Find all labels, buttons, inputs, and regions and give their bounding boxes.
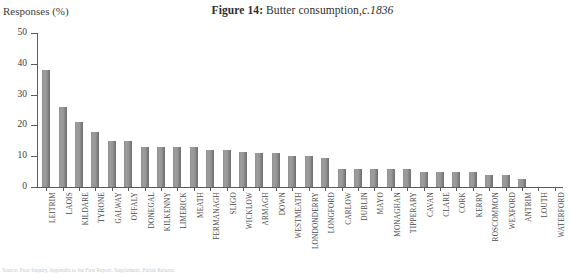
y-tick-30	[31, 95, 37, 96]
bar-monaghan	[387, 169, 395, 187]
x-label-carlow: CARLOW	[345, 192, 353, 250]
x-tick-mayo	[374, 188, 375, 191]
x-tick-longford	[325, 188, 326, 191]
x-label-cavan: CAVAN	[427, 192, 435, 250]
bar-tipperary	[403, 169, 411, 187]
bar-londonderry	[305, 156, 313, 187]
x-tick-monaghan	[391, 188, 392, 191]
bar-offaly	[124, 141, 132, 187]
x-tick-westmeath	[292, 188, 293, 191]
x-label-sligo: SLIGO	[230, 192, 238, 250]
bar-armagh	[255, 153, 263, 187]
x-label-mayo: MAYO	[377, 192, 385, 250]
x-tick-londonderry	[309, 188, 310, 191]
x-tick-cavan	[424, 188, 425, 191]
x-axis-labels: LEITRIMLAOISKILDARETYRONEGALWAYOFFALYDON…	[38, 192, 563, 254]
x-label-meath: MEATH	[197, 192, 205, 250]
x-label-tyrone: TYRONE	[98, 192, 106, 250]
x-tick-dublin	[358, 188, 359, 191]
x-label-kildare: KILDARE	[82, 192, 90, 250]
x-tick-sligo	[227, 188, 228, 191]
bar-limerick	[173, 147, 181, 187]
bar-kilkenny	[157, 147, 165, 187]
bar-kildare	[75, 122, 83, 187]
x-label-monaghan: MONAGHAN	[394, 192, 402, 250]
x-label-dublin: DUBLIN	[361, 192, 369, 250]
bar-down	[272, 153, 280, 187]
x-tick-tipperary	[407, 188, 408, 191]
x-label-waterford: WATERFORD	[558, 192, 566, 250]
x-label-leitrim: LEITRIM	[49, 192, 57, 250]
bar-meath	[190, 147, 198, 187]
x-label-galway: GALWAY	[115, 192, 123, 250]
figure-circa: c.1836	[362, 4, 394, 16]
bar-roscommon	[485, 175, 493, 187]
y-tick-40	[31, 64, 37, 65]
bar-leitrim	[42, 70, 50, 187]
y-tick-20	[31, 125, 37, 126]
bars-layer	[38, 33, 563, 187]
bar-laois	[59, 107, 67, 187]
bar-mayo	[370, 169, 378, 187]
x-tick-wexford	[506, 188, 507, 191]
figure-number: Figure 14:	[212, 4, 264, 16]
bar-tyrone	[91, 132, 99, 187]
x-label-donegal: DONEGAL	[148, 192, 156, 250]
x-label-kilkenny: KILKENNY	[164, 192, 172, 250]
source-note: Source: Poor Inquiry, Appendix to the Fi…	[2, 267, 567, 273]
x-tick-donegal	[145, 188, 146, 191]
x-tick-waterford	[555, 188, 556, 191]
bar-wexford	[502, 175, 510, 187]
x-tick-kilkenny	[161, 188, 162, 191]
x-label-armagh: ARMAGH	[262, 192, 270, 250]
x-label-clare: CLARE	[443, 192, 451, 250]
x-label-louth: LOUTH	[541, 192, 549, 250]
y-tick-label-50: 50	[5, 28, 27, 38]
x-label-roscommon: ROSCOMMON	[492, 192, 500, 250]
x-label-kerry: KERRY	[476, 192, 484, 250]
x-tick-meath	[194, 188, 195, 191]
figure-title: Figure 14: Butter consumption,c.1836	[0, 4, 569, 16]
bar-longford	[321, 158, 329, 187]
x-tick-down	[276, 188, 277, 191]
x-tick-cork	[456, 188, 457, 191]
x-tick-kildare	[79, 188, 80, 191]
x-label-westmeath: WESTMEATH	[295, 192, 303, 250]
y-tick-10	[31, 156, 37, 157]
x-tick-fermanagh	[210, 188, 211, 191]
bar-galway	[108, 141, 116, 187]
bar-antrim	[518, 179, 526, 187]
x-tick-antrim	[522, 188, 523, 191]
bar-sligo	[223, 150, 231, 187]
x-tick-limerick	[177, 188, 178, 191]
x-tick-kerry	[473, 188, 474, 191]
x-label-limerick: LIMERICK	[180, 192, 188, 250]
x-tick-galway	[112, 188, 113, 191]
bar-kerry	[469, 172, 477, 187]
y-tick-label-40: 40	[5, 59, 27, 69]
x-tick-laois	[63, 188, 64, 191]
y-tick-0	[31, 187, 37, 188]
bar-donegal	[141, 147, 149, 187]
x-label-offaly: OFFALY	[131, 192, 139, 250]
bar-fermanagh	[206, 150, 214, 187]
x-label-tipperary: TIPPERARY	[410, 192, 418, 250]
x-tick-roscommon	[489, 188, 490, 191]
x-label-londonderry: LONDONDERRY	[312, 192, 320, 250]
y-tick-label-0: 0	[5, 182, 27, 192]
x-label-longford: LONGFORD	[328, 192, 336, 250]
x-label-cork: CORK	[459, 192, 467, 250]
x-tick-tyrone	[95, 188, 96, 191]
x-tick-clare	[440, 188, 441, 191]
x-label-fermanagh: FERMANAGH	[213, 192, 221, 250]
x-label-laois: LAOIS	[66, 192, 74, 250]
x-tick-louth	[538, 188, 539, 191]
x-tick-offaly	[128, 188, 129, 191]
bar-clare	[436, 172, 444, 187]
x-tick-wicklow	[243, 188, 244, 191]
figure-caption: Butter consumption,	[266, 4, 362, 16]
bar-westmeath	[288, 156, 296, 187]
bar-cork	[452, 172, 460, 187]
x-label-down: DOWN	[279, 192, 287, 250]
x-label-antrim: ANTRIM	[525, 192, 533, 250]
